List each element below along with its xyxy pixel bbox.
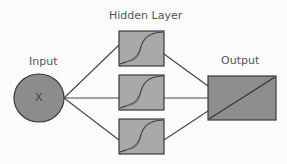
hidden-unit-1 (119, 31, 164, 66)
network-diagram (0, 0, 287, 164)
input-symbol: X (35, 91, 43, 104)
output-node (208, 76, 276, 120)
hidden-unit-2 (119, 75, 164, 110)
hidden-unit-3 (119, 119, 164, 154)
